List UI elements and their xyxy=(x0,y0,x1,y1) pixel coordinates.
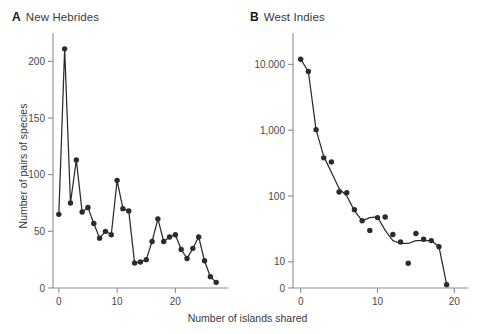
panel-b-plot: 101001,00010.000001020 xyxy=(254,33,468,307)
panel-b-data-point xyxy=(359,218,364,223)
panel-a-data-point xyxy=(56,212,61,217)
panel-b-x-tick-label: 10 xyxy=(372,296,384,307)
panel-a-data-point xyxy=(126,208,131,213)
panel-b-data-point xyxy=(329,159,334,164)
panel-a-y-tick-label: 150 xyxy=(28,113,45,124)
panel-a-data-point xyxy=(184,256,189,261)
panel-a-y-tick-label: 100 xyxy=(28,169,45,180)
panel-a-data-point xyxy=(161,239,166,244)
panel-a-data-point xyxy=(202,258,207,263)
panel-a-y-tick-label: 0 xyxy=(39,283,45,294)
panel-b-data-point xyxy=(421,237,426,242)
panel-a-data-point xyxy=(97,235,102,240)
panel-a-y-tick-label: 50 xyxy=(34,226,46,237)
panel-a-data-point xyxy=(208,274,213,279)
panel-a-data-point xyxy=(120,206,125,211)
panel-b-data-point xyxy=(313,127,318,132)
panel-a-data-point xyxy=(109,232,114,237)
panel-a-title-text: New Hebrides xyxy=(26,11,99,23)
panel-a-data-point xyxy=(196,234,201,239)
panel-a-x-tick-label: 10 xyxy=(112,296,124,307)
panel-b-x-tick-label: 0 xyxy=(298,296,304,307)
panel-b-title-text: West Indies xyxy=(264,11,325,23)
panel-a-data-point xyxy=(85,205,90,210)
panel-a-data-point xyxy=(91,221,96,226)
panel-a-y-tick-label: 200 xyxy=(28,56,45,67)
panel-a-plot: 05010015020001020 xyxy=(28,33,228,307)
panel-a-data-point xyxy=(79,209,84,214)
panel-a-data-point xyxy=(138,259,143,264)
panel-b-y-tick-label: 10 xyxy=(274,256,286,267)
panel-a-y-axis-label: Number of pairs of species xyxy=(17,81,29,251)
panel-a-x-tick-label: 0 xyxy=(56,296,62,307)
panel-b-data-point xyxy=(344,190,349,195)
panel-b-y-tick-label: 100 xyxy=(268,191,285,202)
panel-a-data-point xyxy=(68,200,73,205)
panel-a-data-point xyxy=(173,232,178,237)
panel-b-data-point xyxy=(444,282,449,287)
panel-a-data-point xyxy=(167,234,172,239)
panel-b-data-point xyxy=(306,69,311,74)
panel-b-data-point xyxy=(429,238,434,243)
panel-b-y-tick-label: 10.000 xyxy=(254,59,285,70)
panel-a-data-point xyxy=(190,246,195,251)
panel-b-data-point xyxy=(390,232,395,237)
panel-a-data-point xyxy=(149,239,154,244)
panel-b-data-point xyxy=(321,155,326,160)
panel-b-x-tick-label: 20 xyxy=(449,296,461,307)
figure-container: ANew Hebrides BWest Indies Number of pai… xyxy=(0,0,495,334)
panel-b-letter: B xyxy=(250,10,259,24)
panel-a-data-point xyxy=(103,229,108,234)
panel-b-data-point xyxy=(382,214,387,219)
panel-b-data-point xyxy=(413,231,418,236)
panel-b-data-line xyxy=(301,59,447,284)
panel-b-data-point xyxy=(352,207,357,212)
panel-b-data-point xyxy=(436,244,441,249)
panel-a-data-point xyxy=(179,247,184,252)
panel-b-data-point xyxy=(336,189,341,194)
shared-x-axis-label: Number of islands shared xyxy=(0,312,495,324)
panel-a-data-point xyxy=(62,46,67,51)
panel-b-title: BWest Indies xyxy=(250,10,325,24)
panel-a-letter: A xyxy=(12,10,21,24)
panel-b-y-tick-label: 1,000 xyxy=(260,125,285,136)
panel-a-data-point xyxy=(213,280,218,285)
panel-a-data-point xyxy=(144,257,149,262)
panel-a-data-point xyxy=(74,157,79,162)
panel-b-data-point xyxy=(298,56,303,61)
panel-a-x-tick-label: 20 xyxy=(170,296,182,307)
plot-svg: 05010015020001020 101001,00010.000001020 xyxy=(0,0,495,334)
panel-b-y-tick-label-zero: 0 xyxy=(279,283,285,294)
panel-b-data-point xyxy=(398,239,403,244)
panel-a-data-point xyxy=(132,260,137,265)
panel-a-title: ANew Hebrides xyxy=(12,10,99,24)
panel-b-data-point xyxy=(406,261,411,266)
panel-a-data-point xyxy=(114,178,119,183)
panel-b-data-point xyxy=(375,215,380,220)
panel-b-data-point xyxy=(367,228,372,233)
panel-a-data-point xyxy=(155,216,160,221)
